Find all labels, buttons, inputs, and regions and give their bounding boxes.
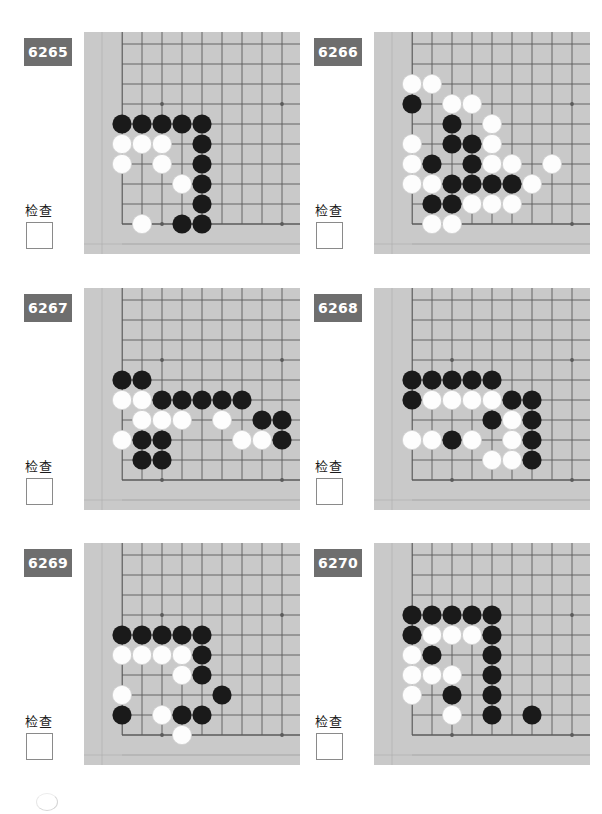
- check-checkbox[interactable]: [26, 733, 53, 760]
- black-stone: [402, 390, 421, 409]
- white-stone: [442, 214, 461, 233]
- problem-side-panel: 6267 检查: [22, 288, 84, 538]
- black-stone: [152, 114, 171, 133]
- black-stone: [442, 114, 461, 133]
- black-stone: [132, 370, 151, 389]
- check-checkbox[interactable]: [26, 222, 53, 249]
- black-stone: [522, 705, 541, 724]
- board-grid: [84, 543, 300, 765]
- white-stone: [132, 410, 151, 429]
- problem-side-panel: 6265 检查: [22, 32, 84, 282]
- black-stone: [462, 605, 481, 624]
- white-stone: [422, 430, 441, 449]
- go-board[interactable]: [374, 543, 590, 765]
- black-stone: [442, 134, 461, 153]
- go-board[interactable]: [84, 288, 300, 510]
- black-stone: [152, 450, 171, 469]
- check-label: 检查: [315, 456, 343, 475]
- check-checkbox[interactable]: [26, 478, 53, 505]
- black-stone: [482, 705, 501, 724]
- check-label: 检查: [315, 200, 343, 219]
- problem-card: 6267 检查: [22, 288, 300, 538]
- board-grid: [374, 32, 590, 254]
- problem-number-badge: 6265: [24, 38, 72, 66]
- problem-side-panel: 6269 检查: [22, 543, 84, 793]
- black-stone: [422, 645, 441, 664]
- white-stone: [112, 390, 131, 409]
- white-stone: [152, 154, 171, 173]
- white-stone: [152, 134, 171, 153]
- star-point: [160, 613, 164, 617]
- black-stone: [402, 370, 421, 389]
- black-stone: [442, 370, 461, 389]
- white-stone: [502, 450, 521, 469]
- white-stone: [522, 174, 541, 193]
- problem-number-badge: 6269: [24, 549, 72, 577]
- white-stone: [422, 174, 441, 193]
- check-checkbox[interactable]: [316, 733, 343, 760]
- black-stone: [482, 685, 501, 704]
- black-stone: [132, 114, 151, 133]
- black-stone: [442, 605, 461, 624]
- problem-card: 6269 检查: [22, 543, 300, 793]
- black-stone: [152, 390, 171, 409]
- black-stone: [422, 370, 441, 389]
- black-stone: [442, 685, 461, 704]
- white-stone: [232, 430, 251, 449]
- black-stone: [112, 114, 131, 133]
- star-point: [280, 613, 284, 617]
- star-point: [450, 478, 454, 482]
- white-stone: [502, 154, 521, 173]
- white-stone: [442, 94, 461, 113]
- white-stone: [112, 645, 131, 664]
- black-stone: [462, 154, 481, 173]
- white-stone: [172, 665, 191, 684]
- black-stone: [192, 390, 211, 409]
- black-stone: [482, 370, 501, 389]
- star-point: [280, 733, 284, 737]
- check-checkbox[interactable]: [316, 478, 343, 505]
- problem-side-panel: 6266 检查: [312, 32, 374, 282]
- star-point: [280, 102, 284, 106]
- black-stone: [172, 390, 191, 409]
- worksheet-page: 6265 检查 6266 检查 6267 检查 6268 检查 6269: [0, 0, 602, 814]
- black-stone: [402, 625, 421, 644]
- black-stone: [422, 605, 441, 624]
- black-stone: [172, 625, 191, 644]
- star-point: [280, 478, 284, 482]
- black-stone: [192, 705, 211, 724]
- problem-number-badge: 6266: [314, 38, 362, 66]
- black-stone: [482, 665, 501, 684]
- star-point: [450, 358, 454, 362]
- star-point: [450, 733, 454, 737]
- black-stone: [522, 430, 541, 449]
- black-stone: [522, 450, 541, 469]
- go-board[interactable]: [84, 32, 300, 254]
- black-stone: [522, 390, 541, 409]
- check-label: 检查: [25, 456, 53, 475]
- star-point: [160, 478, 164, 482]
- check-label: 检查: [25, 200, 53, 219]
- star-point: [570, 102, 574, 106]
- white-stone: [112, 685, 131, 704]
- white-stone: [422, 625, 441, 644]
- go-board[interactable]: [374, 288, 590, 510]
- black-stone: [482, 645, 501, 664]
- problem-number-badge: 6270: [314, 549, 362, 577]
- check-checkbox[interactable]: [316, 222, 343, 249]
- white-stone: [402, 685, 421, 704]
- black-stone: [502, 174, 521, 193]
- black-stone: [482, 625, 501, 644]
- white-stone: [172, 645, 191, 664]
- white-stone: [152, 705, 171, 724]
- white-stone: [502, 410, 521, 429]
- white-stone: [482, 154, 501, 173]
- white-stone: [132, 214, 151, 233]
- white-stone: [542, 154, 561, 173]
- white-stone: [482, 134, 501, 153]
- go-board[interactable]: [374, 32, 590, 254]
- white-stone: [132, 645, 151, 664]
- white-stone: [402, 430, 421, 449]
- white-stone: [422, 74, 441, 93]
- go-board[interactable]: [84, 543, 300, 765]
